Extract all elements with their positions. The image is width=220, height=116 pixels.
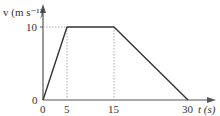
x-tick-label-0: 0 [40, 103, 46, 115]
y-axis-label: v (m s⁻¹) [3, 6, 44, 19]
x-tick-label-15: 15 [108, 103, 120, 115]
x-tick-label-30: 30 [182, 103, 194, 115]
x-axis-label: t (s) [198, 103, 216, 116]
y-tick-label-0: 0 [32, 94, 38, 106]
x-tick-label-5: 5 [64, 103, 70, 115]
velocity-time-graph: v (m s⁻¹) 10 0 0 5 15 30 t (s) [0, 0, 220, 116]
y-tick-label-10: 10 [26, 21, 38, 33]
velocity-line [43, 27, 188, 100]
